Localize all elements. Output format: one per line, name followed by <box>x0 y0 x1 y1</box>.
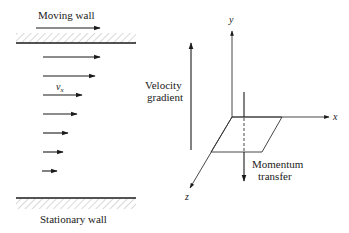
stationary-wall-label: Stationary wall <box>40 213 107 225</box>
velocity-profile <box>42 57 100 171</box>
x-axis-label: x <box>332 111 338 122</box>
stationary-wall-hatching <box>16 199 136 209</box>
z-axis-label: z <box>184 191 189 202</box>
moving-wall-label: Moving wall <box>38 9 95 21</box>
momentum-label-line1: Momentum <box>252 158 304 170</box>
y-axis-label: y <box>228 14 234 25</box>
shear-flow-diagram: Moving wall vx Stationary wall Velocity … <box>0 0 349 233</box>
velocity-gradient-group: Velocity gradient <box>145 43 191 150</box>
stationary-wall-group: Stationary wall <box>16 198 136 225</box>
velocity-gradient-label-line1: Velocity <box>145 79 182 91</box>
coordinate-system: y x z Momentum transfer <box>184 14 338 202</box>
moving-wall-hatching <box>16 33 136 43</box>
shear-plane <box>211 117 282 152</box>
velocity-vx-label: vx <box>56 81 64 94</box>
diagram-canvas: Moving wall vx Stationary wall Velocity … <box>0 0 349 233</box>
velocity-gradient-label-line2: gradient <box>147 91 183 103</box>
moving-wall-group: Moving wall <box>16 9 136 43</box>
momentum-label-line2: transfer <box>258 170 292 182</box>
